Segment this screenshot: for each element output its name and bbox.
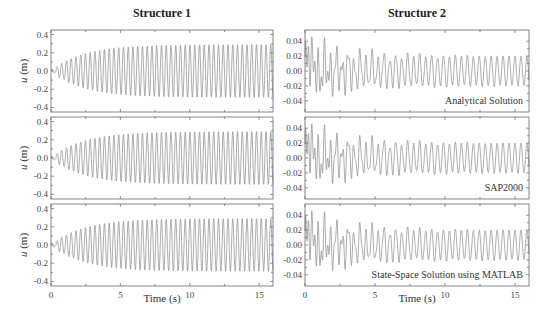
y-tick-label: 0.2 (37, 222, 48, 232)
x-tick-label: 15 (255, 290, 265, 300)
y-tick-label: 0.4 (37, 204, 49, 214)
y-tick-label: 0.04 (286, 36, 302, 46)
y-tick-label: 0.02 (286, 138, 302, 148)
x-tick-label: 5 (373, 290, 378, 300)
x-tick-label: 15 (511, 290, 521, 300)
x-tick-label: 0 (49, 290, 54, 300)
y-tick-label: 0.04 (286, 210, 302, 220)
response-trace (51, 132, 273, 185)
x-tick-label: 5 (118, 290, 123, 300)
y-tick-label: -0.02 (283, 168, 302, 178)
y-tick-label: -0.4 (34, 189, 49, 199)
x-axis-label-right: Time (s) (398, 292, 436, 305)
y-tick-label: 0.02 (286, 51, 302, 61)
x-tick-label: 10 (185, 290, 195, 300)
y-tick-label: -0.2 (34, 84, 48, 94)
x-tick-label: 10 (441, 290, 451, 300)
y-tick-label: -0.02 (283, 255, 302, 265)
panel-1-2: 0.40.20.0-0.2-0.4u (m) (17, 117, 273, 200)
response-trace (305, 124, 529, 184)
y-tick-label: 0.04 (286, 123, 302, 133)
panel-2-3: 0.040.020.00-0.02-0.04State-Space Soluti… (283, 204, 529, 300)
x-tick-label: 0 (303, 290, 308, 300)
y-tick-label: 0.0 (37, 66, 49, 76)
y-tick-label: 0.02 (286, 225, 302, 235)
y-tick-label: -0.4 (34, 276, 49, 286)
y-axis-label: u (m) (17, 59, 30, 83)
y-tick-label: 0.2 (37, 48, 48, 58)
y-axis-label: u (m) (17, 233, 30, 257)
y-tick-label: 0.00 (286, 240, 302, 250)
panel-1-1: 0.40.20.0-0.2-0.4u (m) (17, 30, 273, 113)
y-tick-label: 0.0 (37, 153, 49, 163)
response-trace (305, 37, 529, 97)
method-annotation: Analytical Solution (445, 95, 523, 106)
panel-1-3: 0.40.20.0-0.2-0.4u (m)051015 (17, 204, 273, 300)
y-tick-label: -0.04 (283, 183, 302, 193)
y-tick-label: -0.2 (34, 171, 48, 181)
method-annotation: State-Space Solution using MATLAB (372, 269, 524, 280)
title-structure-2: Structure 2 (388, 6, 446, 20)
y-tick-label: 0.0 (37, 240, 49, 250)
y-tick-label: -0.04 (283, 96, 302, 106)
method-annotation: SAP2000 (485, 182, 523, 193)
y-tick-label: -0.02 (283, 81, 302, 91)
title-structure-1: Structure 1 (133, 6, 191, 20)
panel-2-2: 0.040.020.00-0.02-0.04SAP2000 (283, 117, 529, 199)
y-tick-label: 0.2 (37, 135, 48, 145)
y-tick-label: -0.4 (34, 102, 49, 112)
response-trace (51, 45, 273, 98)
panels: 0.40.20.0-0.2-0.4u (m)0.40.20.0-0.2-0.4u… (17, 30, 529, 300)
response-trace (305, 211, 529, 271)
response-trace (51, 219, 273, 272)
figure: Structure 1 Structure 2 0.40.20.0-0.2-0.… (0, 0, 550, 327)
y-tick-label: -0.04 (283, 270, 302, 280)
x-axis-label-left: Time (s) (143, 292, 181, 305)
y-tick-label: -0.2 (34, 258, 48, 268)
y-tick-label: 0.00 (286, 153, 302, 163)
panel-2-1: 0.040.020.00-0.02-0.04Analytical Solutio… (283, 30, 529, 112)
y-tick-label: 0.4 (37, 30, 49, 40)
y-axis-label: u (m) (17, 146, 30, 170)
y-tick-label: 0.00 (286, 66, 302, 76)
y-tick-label: 0.4 (37, 117, 49, 127)
